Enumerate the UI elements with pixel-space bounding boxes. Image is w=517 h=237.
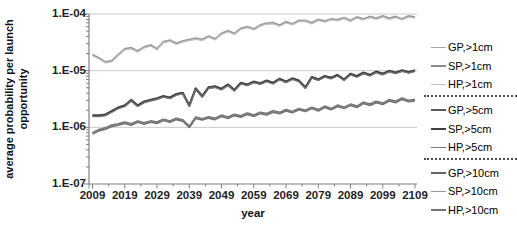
y-tick-label-1e-04: 1.E-04	[42, 7, 86, 19]
legend-item-sp-5cm: SP,>5cm	[424, 119, 517, 138]
series-line-HP--1cm	[93, 17, 416, 63]
x-tick-label-2029: 2029	[141, 189, 173, 201]
legend-item-sp-1cm: SP,>1cm	[424, 57, 517, 76]
legend-item-gp-5cm: GP,>5cm	[424, 101, 517, 120]
y-tick-label-1e-06: 1.E-06	[42, 120, 86, 132]
legend-label: GP,>1cm	[448, 41, 493, 53]
legend-item-hp-5cm: HP,>5cm	[424, 138, 517, 157]
legend-label: SP,>1cm	[448, 60, 492, 72]
legend-label: HP,>10cm	[448, 204, 498, 216]
line-swatch-icon	[431, 191, 446, 193]
x-tick-label-2039: 2039	[173, 189, 205, 201]
legend-group-separator	[424, 95, 517, 99]
series-line-GP--5cm	[93, 70, 416, 115]
x-tick-label-2009: 2009	[77, 189, 109, 201]
x-tick-label-2099: 2099	[367, 189, 399, 201]
legend: GP,>1cm SP,>1cm HP,>1cm GP,>5cm SP,>5cm …	[424, 38, 517, 219]
line-swatch-icon	[431, 209, 446, 211]
x-tick-label-2019: 2019	[109, 189, 141, 201]
y-tick-label-1e-07: 1.E-07	[42, 177, 86, 189]
legend-label: GP,>5cm	[448, 104, 493, 116]
x-tick-label-2089: 2089	[335, 189, 367, 201]
legend-label: GP,>10cm	[448, 167, 499, 179]
line-swatch-icon	[431, 84, 446, 86]
legend-label: SP,>5cm	[448, 123, 492, 135]
line-swatch-icon	[431, 172, 446, 174]
x-tick-label-2079: 2079	[302, 189, 334, 201]
legend-label: SP,>10cm	[448, 185, 498, 197]
x-axis-title: year	[89, 207, 417, 219]
series-line-SP--5cm	[93, 71, 416, 116]
line-swatch-icon	[431, 128, 446, 130]
chart-figure: 1.E-04 1.E-05 1.E-06 1.E-07 2009 2019 20…	[0, 0, 517, 237]
series-line-HP--5cm	[93, 71, 416, 116]
y-axis-title-line-2: opportunity	[17, 68, 29, 129]
y-axis-title: average probability per launch opportuni…	[3, 4, 31, 194]
x-tick-label-2059: 2059	[238, 189, 270, 201]
series-line-SP--1cm	[93, 16, 416, 62]
line-swatch-icon	[431, 147, 446, 149]
line-swatch-icon	[431, 65, 446, 67]
line-swatch-icon	[431, 109, 446, 111]
legend-label: HP,>5cm	[448, 141, 492, 153]
legend-item-gp-1cm: GP,>1cm	[424, 38, 517, 57]
line-swatch-icon	[431, 47, 446, 49]
legend-group-separator	[424, 158, 517, 162]
y-axis-title-line-1: average probability per launch	[3, 19, 15, 179]
series-line-GP--1cm	[93, 16, 416, 62]
legend-item-hp-10cm: HP,>10cm	[424, 201, 517, 220]
legend-item-gp-10cm: GP,>10cm	[424, 164, 517, 183]
legend-label: HP,>1cm	[448, 78, 492, 90]
x-tick-label-2069: 2069	[270, 189, 302, 201]
legend-item-sp-10cm: SP,>10cm	[424, 182, 517, 201]
x-tick-label-2049: 2049	[206, 189, 238, 201]
y-tick-label-1e-05: 1.E-05	[42, 64, 86, 76]
legend-item-hp-1cm: HP,>1cm	[424, 75, 517, 94]
